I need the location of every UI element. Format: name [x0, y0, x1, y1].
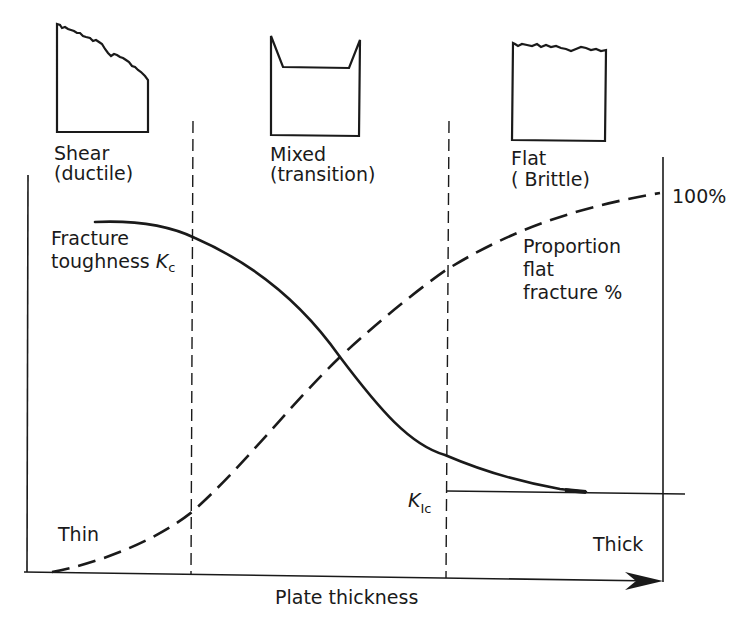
specimen-shear-label: Shear: [54, 142, 109, 164]
specimen-shear-icon: [57, 24, 148, 132]
specimen-flat-sublabel: ( Brittle): [511, 168, 590, 190]
region-boundary-1: [191, 121, 193, 575]
flat-label-line2: flat: [523, 258, 554, 280]
x-axis-label: Plate thickness: [275, 586, 418, 608]
specimen-mixed-icon: [271, 36, 360, 136]
right-axis-max-label: 100%: [672, 185, 726, 207]
specimen-mixed-label: Mixed: [270, 143, 326, 165]
left-axis: [27, 175, 28, 572]
thin-label: Thin: [57, 523, 99, 545]
x-axis: [24, 572, 655, 581]
curve-end-mark: [565, 490, 586, 492]
specimen-mixed-sublabel: (transition): [270, 163, 375, 185]
specimen-flat-icon: [512, 43, 606, 141]
thick-label: Thick: [592, 533, 643, 555]
kc-label-line2: toughness Kc: [51, 250, 175, 275]
fracture-diagram: Shear (ductile) Mixed (transition) Flat …: [0, 0, 751, 626]
flat-label-line1: Proportion: [523, 235, 621, 257]
flat-label-line3: fracture %: [523, 281, 622, 303]
specimen-shear-sublabel: (ductile): [54, 162, 133, 184]
kic-label: KIc: [408, 489, 431, 516]
region-boundary-2: [446, 121, 449, 578]
specimen-flat-label: Flat: [511, 147, 546, 169]
kc-label-line1: Fracture: [51, 227, 129, 249]
